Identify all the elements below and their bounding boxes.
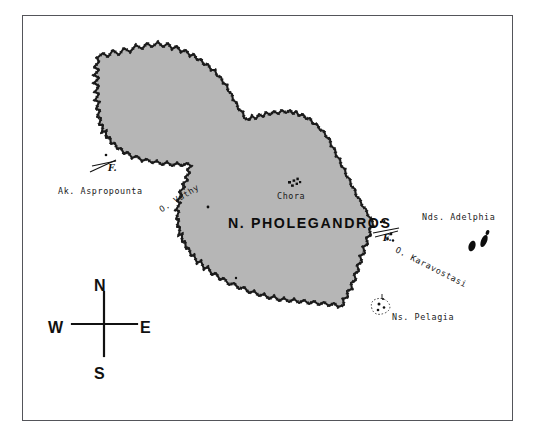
compass-south-label: S [94,366,105,382]
islet-adelphia [467,229,490,252]
rock-dot-vathy [207,206,210,209]
rock-dot-south [235,277,237,279]
islet-label-adelphia: Nds. Adelphia [422,213,495,221]
island-pholegandros [94,42,373,307]
lighthouse-mark-aspropounta: F. [108,163,117,173]
compass-north-label: N [94,278,106,294]
rock-dot [105,154,108,157]
compass-east-label: E [140,320,151,336]
lighthouse-mark-karavostasi: F. [383,233,392,243]
islet-label-pelagia: Ns. Pelagia [392,313,454,321]
compass-west-label: W [48,320,63,336]
compass-rose: N S W E [48,278,168,382]
islet-pelagia [371,294,390,314]
map-figure: N. PHOLEGANDROS Chora Ak. Aspropounta O.… [0,0,533,438]
cape-label-aspropounta: Ak. Aspropounta [58,187,143,195]
settlement-label-chora: Chora [277,192,305,200]
island-name-label: N. PHOLEGANDROS [228,215,392,231]
